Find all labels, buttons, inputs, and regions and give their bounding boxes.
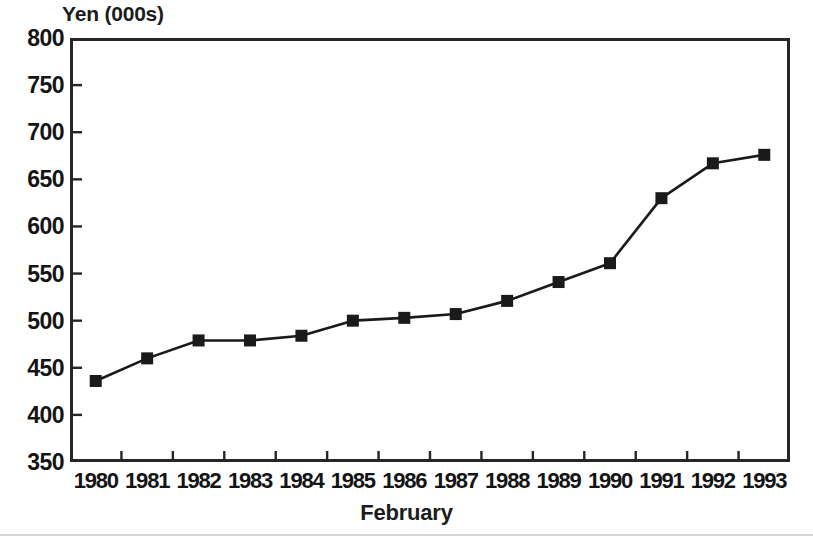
y-axis-tick-label: 700 <box>2 119 64 146</box>
y-axis-tick-label: 350 <box>2 449 64 476</box>
y-axis-tick-label: 500 <box>2 307 64 334</box>
y-axis-title: Yen (000s) <box>62 2 164 26</box>
series-markers-yen <box>90 149 771 387</box>
data-point-marker <box>604 257 616 269</box>
y-axis-tick-label: 800 <box>2 25 64 52</box>
data-point-marker <box>450 308 462 320</box>
y-axis-tick-label: 600 <box>2 213 64 240</box>
plot-series-layer <box>70 38 790 462</box>
x-axis-tick-label: 1986 <box>382 468 426 494</box>
x-axis-tick-label: 1981 <box>125 468 169 494</box>
y-axis-tick-label: 650 <box>2 166 64 193</box>
data-point-marker <box>758 149 770 161</box>
series-line-yen <box>96 155 765 381</box>
x-axis-tick-label: 1990 <box>588 468 632 494</box>
y-axis-tick-label: 400 <box>2 401 64 428</box>
x-axis-tick-label: 1992 <box>691 468 735 494</box>
x-axis-tick-label: 1988 <box>485 468 529 494</box>
axis-tick-marks <box>70 85 739 462</box>
y-axis-tick-label: 450 <box>2 354 64 381</box>
y-axis-tick-label: 550 <box>2 260 64 287</box>
x-axis-tick-label: 1989 <box>536 468 580 494</box>
x-axis-tick-labels: 1980198119821983198419851986198719881989… <box>70 468 790 502</box>
x-axis-tick-label: 1987 <box>434 468 478 494</box>
x-axis-tick-label: 1985 <box>331 468 375 494</box>
data-point-marker <box>501 295 513 307</box>
x-axis-title: February <box>0 500 813 526</box>
x-axis-tick-label: 1993 <box>742 468 786 494</box>
data-point-marker <box>295 330 307 342</box>
page-bottom-rule <box>0 534 813 536</box>
x-axis-tick-label: 1982 <box>176 468 220 494</box>
data-point-marker <box>244 334 256 346</box>
data-point-marker <box>398 312 410 324</box>
x-axis-tick-label: 1983 <box>228 468 272 494</box>
x-axis-tick-label: 1991 <box>639 468 683 494</box>
data-point-marker <box>193 334 205 346</box>
y-axis-tick-labels: 350400450500550600650700750800 <box>0 0 64 539</box>
data-point-marker <box>553 276 565 288</box>
x-axis-tick-label: 1984 <box>279 468 323 494</box>
data-point-marker <box>141 352 153 364</box>
y-axis-tick-label: 750 <box>2 72 64 99</box>
x-axis-tick-label: 1980 <box>74 468 118 494</box>
data-point-marker <box>90 375 102 387</box>
line-chart: Yen (000s) 35040045050055060065070075080… <box>0 0 813 539</box>
data-point-marker <box>655 192 667 204</box>
data-point-marker <box>707 157 719 169</box>
data-point-marker <box>347 315 359 327</box>
